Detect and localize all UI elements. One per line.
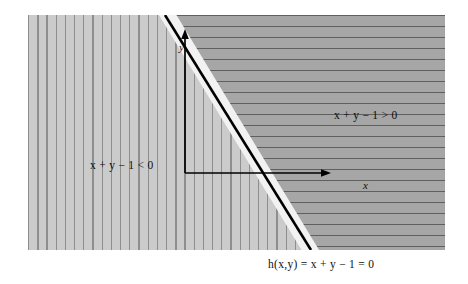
axes [28,15,445,250]
x-axis-label: x [363,180,368,191]
y-axis-label: y [179,42,184,53]
plot-area: y x x + y − 1 < 0 x + y − 1 > 0 [28,15,445,250]
region-label-positive: x + y − 1 > 0 [334,110,398,122]
figure-caption: h(x,y) = x + y − 1 = 0 [268,259,374,271]
region-label-negative: x + y − 1 < 0 [90,160,154,172]
half-plane-figure: y x x + y − 1 < 0 x + y − 1 > 0 h(x,y) =… [0,0,468,284]
